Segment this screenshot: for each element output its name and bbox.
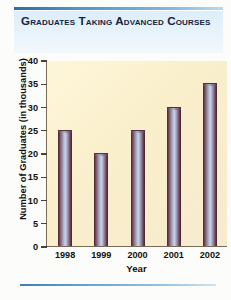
y-axis-tick-label: 30: [28, 103, 38, 113]
y-axis-tick: [41, 246, 47, 247]
chart-page: Graduates Taking Advanced Courses Number…: [0, 0, 231, 300]
y-axis-tick: [41, 200, 47, 201]
title-top-rule: [14, 7, 223, 10]
bar-1998: [58, 130, 72, 246]
x-axis-label: Year: [46, 263, 227, 274]
bar-2002: [203, 83, 217, 246]
x-axis-tick-label: 2001: [164, 250, 184, 260]
plot-area: 051015202530354019981999200020012002: [46, 61, 227, 247]
chart-area: Number of Graduates (in thousands) 05101…: [0, 56, 231, 274]
y-axis-tick: [41, 177, 47, 178]
page-title: Graduates Taking Advanced Courses: [21, 14, 217, 29]
x-axis-tick-label: 2000: [127, 250, 147, 260]
x-axis-tick-label: 1998: [55, 250, 75, 260]
y-axis-tick-label: 15: [28, 172, 38, 182]
y-axis-tick: [41, 223, 47, 224]
x-axis-tick-label: 2002: [200, 250, 220, 260]
y-axis-tick: [41, 107, 47, 108]
bar-2000: [131, 130, 145, 246]
bar-2001: [167, 107, 181, 247]
y-axis-tick-label: 20: [28, 149, 38, 159]
y-axis-tick-label: 25: [28, 126, 38, 136]
y-axis-tick: [41, 130, 47, 131]
footer-rule: [20, 284, 216, 286]
title-band: Graduates Taking Advanced Courses: [14, 11, 223, 53]
axis-and-bars: 051015202530354019981999200020012002: [47, 61, 227, 246]
bar-1999: [94, 153, 108, 246]
y-axis-tick: [41, 60, 47, 61]
y-axis-tick-label: 5: [33, 219, 38, 229]
y-axis-tick-label: 10: [28, 196, 38, 206]
y-axis-tick: [41, 153, 47, 154]
x-axis-tick-label: 1999: [91, 250, 111, 260]
y-axis-tick: [41, 84, 47, 85]
y-axis-tick-label: 40: [28, 56, 38, 66]
y-axis-tick-label: 35: [28, 79, 38, 89]
y-axis-tick-label: 0: [33, 242, 38, 252]
y-axis-label: Number of Graduates (in thousands): [18, 53, 28, 225]
